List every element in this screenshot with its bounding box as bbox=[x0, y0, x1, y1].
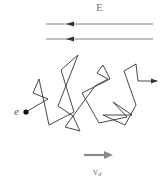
drift-velocity-label: vd bbox=[93, 166, 102, 178]
electron-label: e bbox=[14, 105, 19, 117]
electron-drift-diagram bbox=[0, 0, 165, 181]
drift-velocity-arrow bbox=[84, 151, 113, 159]
field-arrowhead-1 bbox=[66, 22, 74, 27]
electron-dot bbox=[23, 109, 28, 114]
field-label: E bbox=[96, 1, 103, 13]
electric-field-lines bbox=[46, 22, 153, 42]
drift-velocity-subscript: d bbox=[98, 170, 102, 178]
field-arrowhead-2 bbox=[66, 37, 74, 42]
electron-random-path bbox=[26, 55, 157, 131]
